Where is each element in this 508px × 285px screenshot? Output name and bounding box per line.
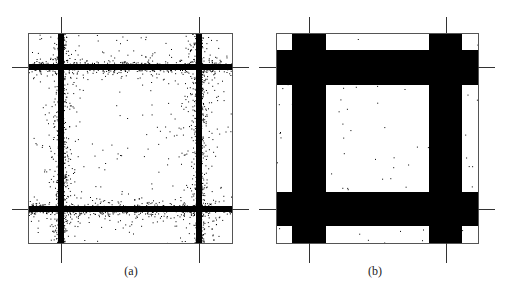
- horizontal-band: [28, 64, 232, 70]
- horizontal-band: [28, 206, 232, 212]
- figure: (a) (b): [0, 0, 508, 285]
- caption-b: (b): [355, 264, 395, 279]
- horizontal-band: [276, 192, 478, 226]
- figure-canvas: [0, 0, 508, 285]
- horizontal-band: [276, 50, 478, 85]
- caption-a: (a): [111, 264, 151, 279]
